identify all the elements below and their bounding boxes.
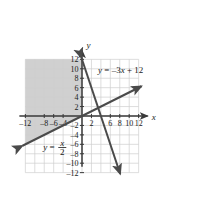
x-axis-tick-label: 6 bbox=[108, 119, 112, 128]
y-axis-tick-label: 2 bbox=[75, 103, 79, 112]
equation-label-line2-lhs: y = bbox=[42, 142, 54, 152]
y-axis-name-label: y bbox=[86, 40, 91, 50]
y-axis-tick-label: –4 bbox=[70, 131, 79, 140]
x-axis-tick-label: 10 bbox=[125, 119, 133, 128]
equation-label-line1: y = –3x + 12 bbox=[97, 65, 143, 75]
y-axis-tick-label: –6 bbox=[70, 140, 79, 149]
x-axis-tick-label: –6 bbox=[49, 119, 58, 128]
x-axis-name-label: x bbox=[151, 112, 156, 122]
y-axis-tick-label: 6 bbox=[75, 84, 79, 93]
x-axis-tick-label: 2 bbox=[89, 119, 93, 128]
x-axis-tick-label: 12 bbox=[135, 119, 143, 128]
y-axis-tick-label: –10 bbox=[66, 159, 79, 168]
x-axis-tick-label: –12 bbox=[18, 119, 31, 128]
y-axis-tick-label: 8 bbox=[75, 74, 79, 83]
equation-fraction-denominator: 2 bbox=[60, 147, 65, 157]
y-axis-tick-label: 10 bbox=[71, 65, 79, 74]
plot-area: –12–8–6–4268101212108642–2–4–6–8–10–12xy… bbox=[18, 40, 155, 177]
coordinate-graph-figure: –12–8–6–4268101212108642–2–4–6–8–10–12xy… bbox=[0, 0, 198, 202]
y-axis-tick-label: 4 bbox=[75, 93, 79, 102]
y-axis-tick-label: –8 bbox=[70, 150, 79, 159]
x-axis-tick-label: –8 bbox=[39, 119, 48, 128]
x-axis-tick-label: 8 bbox=[118, 119, 122, 128]
y-axis-tick-label: 12 bbox=[71, 55, 79, 64]
y-axis-tick-label: –2 bbox=[70, 121, 79, 130]
y-axis-tick-label: –12 bbox=[66, 169, 79, 178]
graph-canvas: –12–8–6–4268101212108642–2–4–6–8–10–12xy… bbox=[0, 0, 198, 202]
